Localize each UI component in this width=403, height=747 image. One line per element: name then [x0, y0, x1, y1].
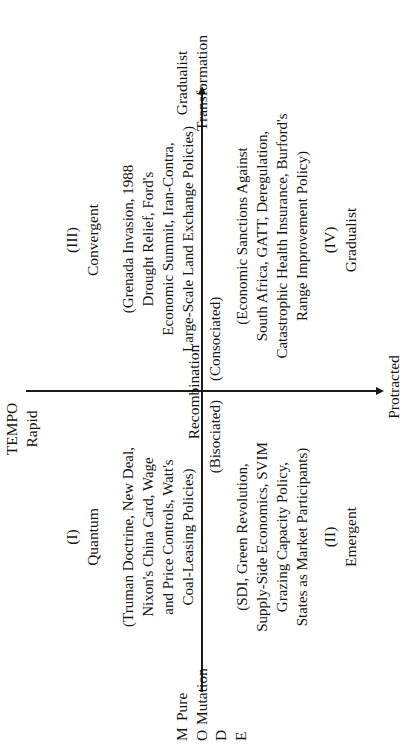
- mode-axis-center-sub-left: (Bisociated): [206, 400, 226, 522]
- quadrant-4-heading: (IV) Gradualist: [320, 133, 362, 347]
- mode-letter-m: M: [172, 727, 192, 741]
- matrix-figure: TEMPO Rapid Protracted M O D E Pure Muta…: [0, 0, 403, 747]
- mode-axis-title-letters: M O D E: [172, 727, 250, 741]
- quadrant-3-name: Convergent: [83, 125, 104, 355]
- quadrant-2-name: Emergent: [341, 437, 362, 637]
- tempo-axis-title: TEMPO: [2, 393, 22, 465]
- quadrant-3-heading: (III) Convergent: [62, 125, 104, 355]
- mode-letter-e: E: [231, 727, 251, 741]
- quadrant-3-numeral: (III): [62, 125, 83, 355]
- quadrant-4-examples: (Economic Sanctions Against South Africa…: [232, 97, 312, 375]
- quadrant-1-name: Quantum: [83, 437, 104, 637]
- quadrant-2-heading: (II) Emergent: [320, 437, 362, 637]
- quadrant-1-numeral: (I): [62, 437, 83, 637]
- mode-axis-left-label-line2: Mutation: [192, 668, 212, 725]
- quadrant-2-numeral: (II): [320, 437, 341, 637]
- tempo-axis-arrowhead: [376, 388, 384, 396]
- quadrant-1-heading: (I) Quantum: [62, 437, 104, 637]
- mode-axis-center-sub-right: (Consociated): [206, 251, 226, 381]
- tempo-axis-top-label: Rapid: [22, 393, 42, 465]
- quadrant-4-name: Gradualist: [341, 133, 362, 347]
- mode-axis-left-label-line1: Pure: [172, 693, 192, 721]
- quadrant-2-examples: (SDI, Green Revolution, Supply-Side Econ…: [232, 419, 312, 655]
- quadrant-3-examples: (Grenada Invasion, 1988 Drought Relief, …: [118, 103, 198, 375]
- tempo-axis-bottom-label: Protracted: [384, 339, 403, 435]
- quadrant-1-examples: (Truman Doctrine, New Deal, Nixon's Chin…: [118, 423, 198, 651]
- quadrant-4-numeral: (IV): [320, 133, 341, 347]
- mode-letter-d: D: [211, 727, 231, 741]
- mode-letter-o: O: [192, 727, 212, 741]
